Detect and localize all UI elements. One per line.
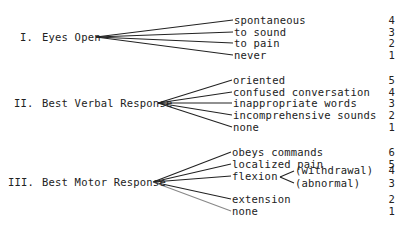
response-label: never [234, 49, 267, 61]
section-2-numeral: II. [14, 97, 34, 109]
response-label: flexion [232, 170, 278, 182]
response-score: 1 [383, 49, 395, 61]
response-score: 2 [383, 193, 395, 205]
response-score: 6 [383, 146, 395, 158]
response-score: 3 [383, 97, 395, 109]
response-sublabel: (withdrawal) [295, 164, 373, 176]
response-label: inappropriate words [233, 97, 357, 109]
section-3-numeral: III. [8, 176, 34, 188]
response-label: obeys commands [232, 146, 323, 158]
response-score: 4 [383, 14, 395, 26]
response-label: none [233, 121, 259, 133]
section-1-numeral: I. [20, 31, 33, 43]
response-score: 5 [383, 74, 395, 86]
response-score: 2 [383, 109, 395, 121]
response-label: to pain [234, 37, 280, 49]
response-label: spontaneous [234, 14, 306, 26]
response-sublabel: (abnormal) [295, 177, 360, 189]
response-score: 3 [383, 177, 395, 189]
response-label: incomprehensive sounds [233, 109, 376, 121]
response-label: none [232, 205, 258, 217]
response-score: 1 [383, 121, 395, 133]
section-3-title: Best Motor Response [42, 176, 166, 188]
section-1-title: Eyes Open [42, 31, 101, 43]
section-2-title: Best Verbal Response [42, 97, 172, 109]
response-score: 4 [383, 164, 395, 176]
response-label: oriented [233, 74, 285, 86]
response-label: extension [232, 193, 291, 205]
response-score: 2 [383, 37, 395, 49]
response-score: 1 [383, 205, 395, 217]
